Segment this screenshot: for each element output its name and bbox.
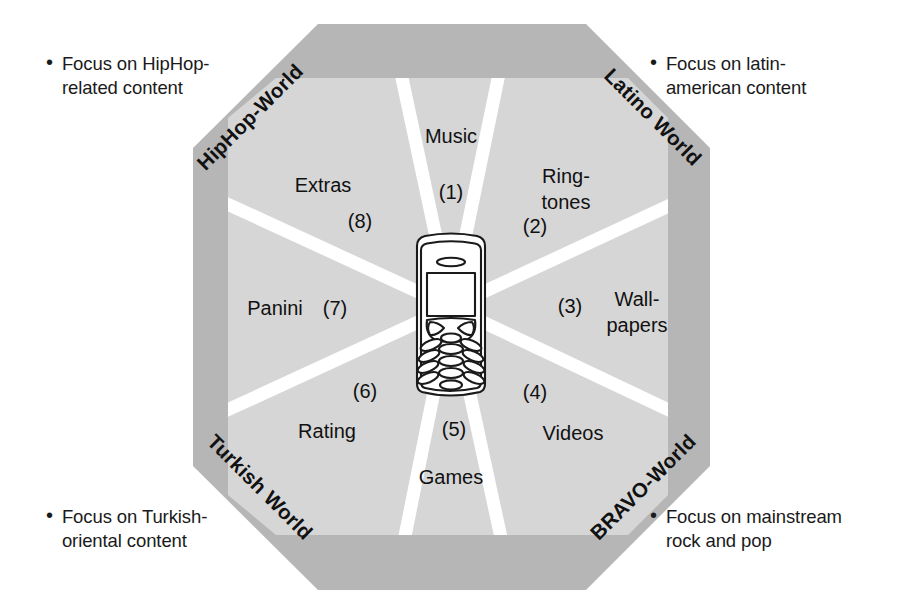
mobile-phone-icon [416, 234, 486, 396]
segment-number-rating: (6) [353, 380, 377, 402]
segment-label-extras: Extras [295, 174, 352, 196]
phone-earpiece-icon [437, 258, 465, 266]
phone-key [439, 344, 463, 354]
segment-label-ringtones-line1: Ring- [542, 165, 590, 187]
segment-number-wallpapers: (3) [558, 295, 582, 317]
segment-number-games: (5) [442, 418, 466, 440]
note-turkish-text: Focus on Turkish- oriental content [62, 505, 207, 552]
segment-number-ringtones: (2) [523, 215, 547, 237]
bullet-icon: • [650, 51, 657, 74]
phone-key [439, 356, 463, 366]
note-bravo-text: Focus on mainstream rock and pop [666, 505, 842, 552]
segment-label-videos: Videos [543, 422, 604, 444]
segment-number-extras: (8) [348, 210, 372, 232]
segment-label-games: Games [419, 466, 483, 488]
segment-number-panini: (7) [323, 297, 347, 319]
note-hiphop: • Focus on HipHop- related content [46, 52, 261, 99]
segment-number-videos: (4) [523, 381, 547, 403]
segment-label-rating: Rating [298, 420, 356, 442]
segment-label-music: Music [425, 125, 477, 147]
segment-number-music: (1) [439, 181, 463, 203]
note-bravo: • Focus on mainstream rock and pop [650, 505, 885, 552]
diagram-canvas: HipHop-World Latino World BRAVO-World Tu… [0, 0, 920, 616]
segment-label-ringtones-line2: tones [542, 191, 591, 213]
segment-label-wallpapers-line1: Wall- [615, 288, 660, 310]
bullet-icon: • [46, 51, 53, 74]
segment-label-wallpapers-line2: papers [606, 314, 667, 336]
note-turkish: • Focus on Turkish- oriental content [46, 505, 261, 552]
note-hiphop-text: Focus on HipHop- related content [62, 52, 210, 99]
phone-key [439, 368, 463, 378]
segment-label-panini: Panini [247, 297, 303, 319]
phone-dpad-center-key [441, 334, 461, 343]
bullet-icon: • [650, 504, 657, 527]
phone-key [440, 380, 462, 389]
bullet-icon: • [46, 504, 53, 527]
segment-panini[interactable]: Panini (7) [247, 297, 347, 319]
note-latino-text: Focus on latin- american content [666, 52, 806, 99]
phone-screen [427, 273, 475, 316]
note-latino: • Focus on latin- american content [650, 52, 880, 99]
